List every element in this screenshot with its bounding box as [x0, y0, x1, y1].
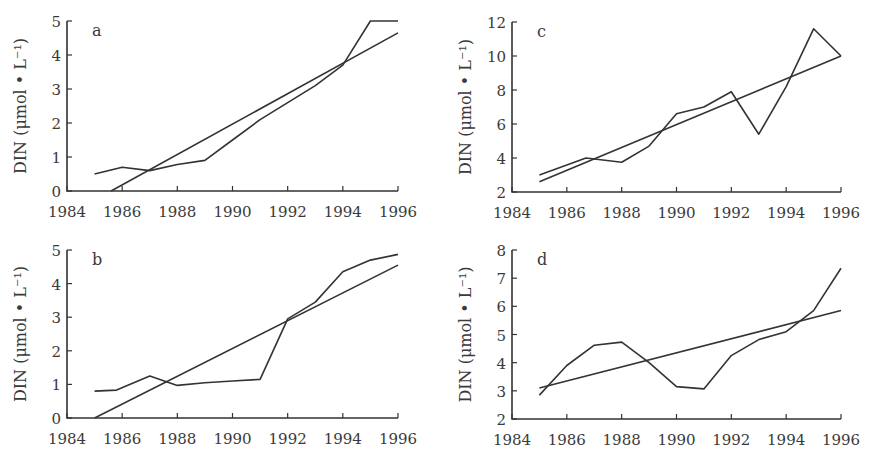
x-tick-label: 1994	[767, 204, 805, 222]
x-tick-label: 1996	[379, 203, 417, 221]
y-tick-label: 3	[51, 81, 61, 99]
y-tick-label: 2	[51, 115, 61, 133]
y-tick-label: 6	[496, 298, 506, 316]
x-tick-label: 1992	[269, 430, 307, 448]
x-tick-label: 1984	[48, 430, 86, 448]
y-axis-label: DIN (μmol • L⁻¹)	[11, 38, 30, 174]
y-tick-label: 1	[51, 149, 61, 167]
x-tick-label: 1988	[158, 430, 196, 448]
y-tick-label: 3	[51, 309, 61, 327]
y-tick-label: 5	[51, 242, 61, 260]
trend-line	[539, 56, 841, 182]
y-tick-label: 4	[51, 276, 61, 294]
y-tick-label: 1	[51, 376, 61, 394]
panel-letter: c	[537, 22, 546, 41]
y-tick-label: 3	[496, 383, 506, 401]
y-axis-label: DIN (μmol • L⁻¹)	[11, 266, 30, 402]
x-tick-label: 1996	[822, 431, 860, 449]
x-tick-label: 1994	[324, 430, 362, 448]
observed-line	[95, 254, 398, 391]
trend-line	[95, 265, 398, 418]
y-axis-label: DIN (μmol • L⁻¹)	[456, 266, 475, 402]
y-tick-label: 4	[51, 47, 61, 65]
panel-letter: b	[92, 250, 102, 269]
axes-frame	[67, 250, 398, 418]
x-tick-label: 1992	[712, 431, 750, 449]
y-tick-label: 5	[51, 13, 61, 31]
x-tick-label: 1986	[103, 203, 141, 221]
x-tick-label: 1990	[657, 204, 695, 222]
panel-c: 246810121984198619881990199219941996DIN …	[456, 14, 860, 222]
observed-line	[95, 21, 398, 174]
y-tick-label: 8	[496, 82, 506, 100]
panel-letter: d	[537, 250, 547, 269]
axes-frame	[512, 250, 841, 419]
x-tick-label: 1988	[158, 203, 196, 221]
x-tick-label: 1988	[603, 431, 641, 449]
x-tick-label: 1992	[712, 204, 750, 222]
panel-d: 23456781984198619881990199219941996DIN (…	[456, 242, 860, 449]
x-tick-label: 1986	[548, 204, 586, 222]
observed-line	[539, 29, 841, 175]
y-tick-label: 4	[496, 355, 506, 373]
x-tick-label: 1984	[493, 204, 531, 222]
y-tick-label: 0	[51, 183, 61, 201]
x-tick-label: 1994	[324, 203, 362, 221]
y-tick-label: 12	[487, 14, 506, 32]
trend-line	[539, 311, 841, 388]
trend-line	[111, 33, 398, 191]
y-tick-label: 7	[496, 270, 506, 288]
x-tick-label: 1992	[269, 203, 307, 221]
y-tick-label: 4	[496, 150, 506, 168]
panel-a: 0123451984198619881990199219941996DIN (μ…	[11, 13, 417, 221]
x-tick-label: 1984	[493, 431, 531, 449]
x-tick-label: 1984	[48, 203, 86, 221]
y-tick-label: 0	[51, 410, 61, 428]
din-trend-figure: 0123451984198619881990199219941996DIN (μ…	[0, 0, 871, 467]
x-tick-label: 1990	[213, 203, 251, 221]
y-tick-label: 10	[487, 48, 506, 66]
y-tick-label: 2	[51, 343, 61, 361]
y-tick-label: 2	[496, 411, 506, 429]
x-tick-label: 1990	[657, 431, 695, 449]
x-tick-label: 1996	[379, 430, 417, 448]
x-tick-label: 1986	[103, 430, 141, 448]
panel-b: 0123451984198619881990199219941996DIN (μ…	[11, 242, 417, 448]
x-tick-label: 1996	[822, 204, 860, 222]
x-tick-label: 1990	[213, 430, 251, 448]
panel-letter: a	[92, 21, 102, 40]
y-tick-label: 2	[496, 184, 506, 202]
x-tick-label: 1994	[767, 431, 805, 449]
y-tick-label: 5	[496, 327, 506, 345]
y-axis-label: DIN (μmol • L⁻¹)	[456, 39, 475, 175]
axes-frame	[67, 21, 398, 191]
y-tick-label: 6	[496, 116, 506, 134]
y-tick-label: 8	[496, 242, 506, 260]
x-tick-label: 1986	[548, 431, 586, 449]
x-tick-label: 1988	[603, 204, 641, 222]
